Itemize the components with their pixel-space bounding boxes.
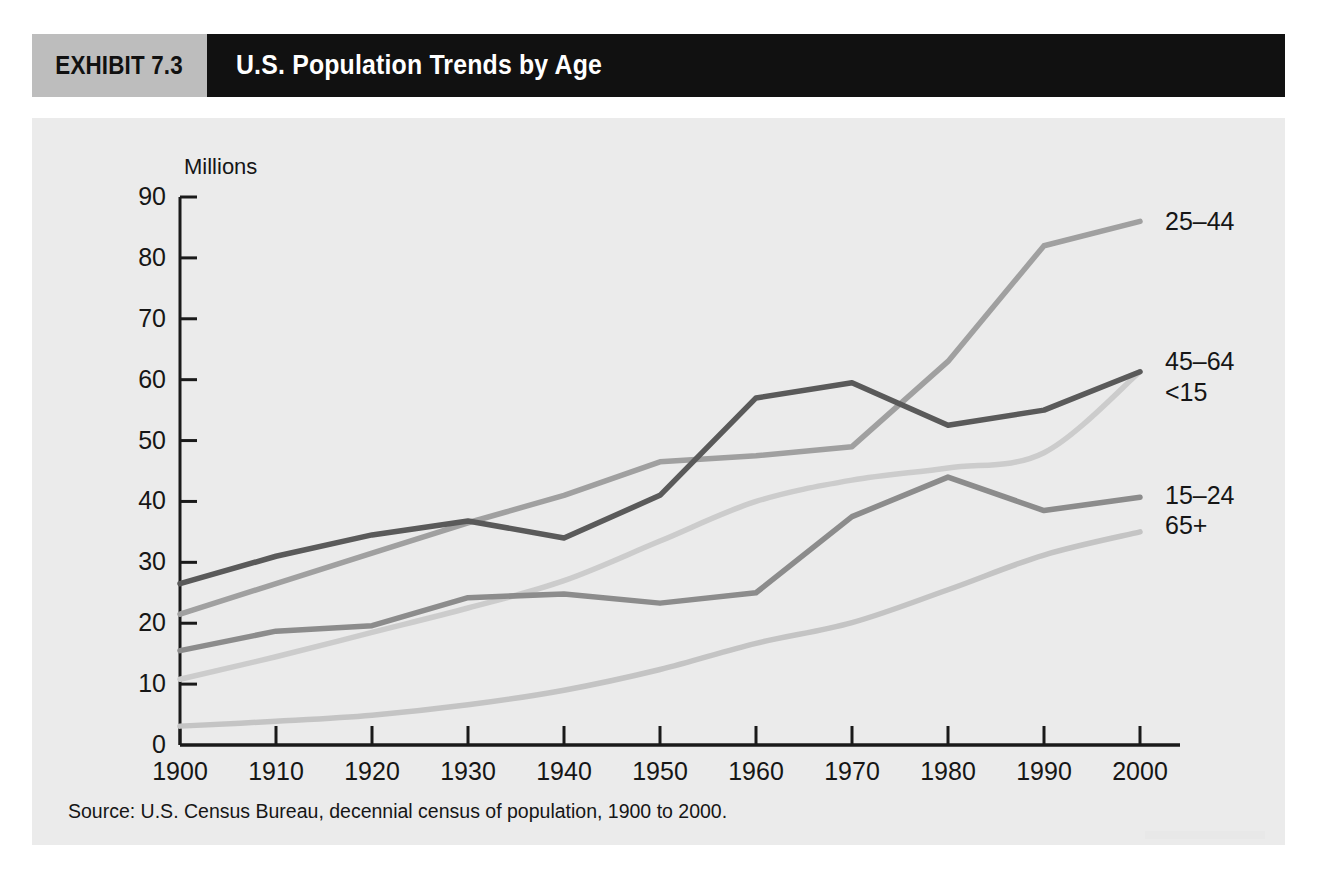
- y-axis-tick-label: 30: [138, 547, 166, 575]
- page-title: U.S. Population Trends by Age: [236, 50, 602, 81]
- series-label-65x: 65+: [1165, 511, 1207, 539]
- exhibit-number-tag: EXHIBIT 7.3: [32, 34, 207, 97]
- series-label-x15: <15: [1165, 378, 1207, 406]
- y-axis-tick-label: 80: [138, 243, 166, 271]
- x-axis-tick-label: 1950: [632, 757, 688, 785]
- x-axis-tick-label: 1960: [728, 757, 784, 785]
- y-axis-unit-label: Millions: [184, 154, 257, 179]
- x-axis-tick-label: 1940: [536, 757, 592, 785]
- x-axis-tick-label: 1970: [824, 757, 880, 785]
- exhibit-number-label: EXHIBIT 7.3: [56, 50, 183, 81]
- series-label-15-24: 15–24: [1165, 481, 1235, 509]
- series-line-45-64: [180, 372, 1140, 584]
- y-axis-tick-label: 20: [138, 608, 166, 636]
- page-artifact: [1145, 831, 1265, 839]
- chart-panel: Millions01020304050607080901900191019201…: [32, 118, 1285, 845]
- series-label-45-64: 45–64: [1165, 347, 1235, 375]
- y-axis-tick-label: 10: [138, 669, 166, 697]
- source-note: Source: U.S. Census Bureau, decennial ce…: [68, 800, 727, 823]
- y-axis-tick-label: 50: [138, 426, 166, 454]
- x-axis-tick-label: 1910: [248, 757, 304, 785]
- x-axis-tick-label: 1990: [1016, 757, 1072, 785]
- x-axis-tick-label: 1900: [152, 757, 208, 785]
- x-axis-tick-label: 1980: [920, 757, 976, 785]
- y-axis-tick-label: 0: [152, 730, 166, 758]
- y-axis-tick-label: 70: [138, 304, 166, 332]
- exhibit-title-bar: U.S. Population Trends by Age: [207, 34, 1285, 97]
- y-axis-tick-label: 90: [138, 182, 166, 210]
- series-line-15-24: [180, 477, 1140, 651]
- x-axis-tick-label: 2000: [1112, 757, 1168, 785]
- series-label-25-44: 25–44: [1165, 207, 1235, 235]
- line-chart: Millions01020304050607080901900191019201…: [32, 118, 1285, 845]
- x-axis-tick-label: 1930: [440, 757, 496, 785]
- x-axis-tick-label: 1920: [344, 757, 400, 785]
- y-axis-tick-label: 60: [138, 365, 166, 393]
- y-axis-tick-label: 40: [138, 486, 166, 514]
- exhibit-header: EXHIBIT 7.3 U.S. Population Trends by Ag…: [32, 34, 1285, 97]
